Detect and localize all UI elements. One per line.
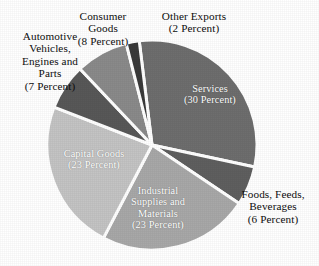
slice-label-services-name: Services <box>192 83 228 94</box>
slice-label-other-exports-name: Other Exports <box>162 10 226 22</box>
slice-label-foods-feeds-beverages: Foods, Feeds, Beverages (6 Percent) <box>228 188 318 225</box>
slice-label-foods-name: Foods, Feeds, Beverages <box>241 188 304 212</box>
slice-label-services: Services (30 Percent) <box>166 83 254 106</box>
slice-label-industrial-supplies: Industrial Supplies and Materials (23 Pe… <box>108 185 208 231</box>
slice-label-consumer-goods: Consumer Goods (8 Percent) <box>61 10 145 47</box>
slice-label-other-exports-pct: (2 Percent) <box>169 22 220 34</box>
slice-label-consumer-goods-pct: (8 Percent) <box>78 35 129 47</box>
slice-label-capital-goods-pct: (23 Percent) <box>68 159 120 170</box>
slice-label-industrial-pct: (23 Percent) <box>132 219 184 230</box>
pie-chart: Automotive Vehicles, Engines and Parts (… <box>0 0 319 266</box>
slice-label-industrial-name: Industrial Supplies and Materials <box>131 185 185 219</box>
slice-label-automotive-pct: (7 Percent) <box>25 80 76 92</box>
slice-label-foods-pct: (6 Percent) <box>248 213 299 225</box>
slice-label-other-exports: Other Exports (2 Percent) <box>146 10 242 35</box>
slice-label-capital-goods: Capital Goods (23 Percent) <box>48 148 140 171</box>
slice-label-capital-goods-name: Capital Goods <box>64 148 125 159</box>
slice-label-consumer-goods-name: Consumer Goods <box>80 10 127 34</box>
slice-label-services-pct: (30 Percent) <box>184 94 236 105</box>
